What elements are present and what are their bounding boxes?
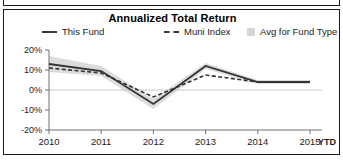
x-tick-label: 2012 [143, 136, 164, 147]
x-tick-label: 2014 [247, 136, 268, 147]
chart-screenshot: Annualized Total Return This Fund Muni I… [0, 0, 343, 162]
cropped-panel-above [3, 0, 340, 6]
y-tick-label: -10% [21, 105, 42, 115]
plot-area: 20%10%0%-10%-20% 20102011201220132014201… [4, 36, 341, 154]
ytd-axis-label: YTD [318, 137, 337, 147]
x-axis-tick-labels: 201020112012201320142015 [38, 136, 320, 147]
solid-line-swatch-icon [42, 31, 57, 33]
y-tick-label: 0% [29, 85, 42, 95]
x-tick-label: 2010 [38, 136, 59, 147]
band-square-swatch-icon [247, 28, 255, 36]
y-axis-tick-labels: 20%10%0%-10%-20% [21, 45, 42, 135]
dashed-line-swatch-icon [164, 31, 179, 33]
x-axis-ticks [49, 130, 310, 134]
y-axis-ticks [45, 50, 49, 130]
y-tick-label: 10% [24, 65, 42, 75]
x-tick-label: 2011 [91, 136, 111, 147]
x-tick-label: 2013 [195, 136, 216, 147]
chart-card: Annualized Total Return This Fund Muni I… [3, 9, 340, 155]
y-tick-label: 20% [24, 45, 42, 55]
chart-title: Annualized Total Return [4, 12, 341, 24]
y-tick-label: -20% [21, 125, 42, 135]
line-chart-svg: 20%10%0%-10%-20% 20102011201220132014201… [4, 36, 341, 154]
